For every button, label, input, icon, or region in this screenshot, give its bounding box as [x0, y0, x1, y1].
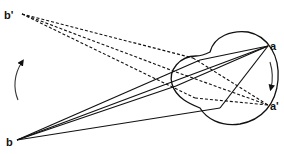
- label-a: a: [270, 40, 277, 52]
- label-b: b: [6, 136, 13, 148]
- label-a-prime: a': [270, 100, 279, 112]
- solid-rays: [17, 46, 268, 140]
- eye-ray-diagram: b' b a a': [0, 0, 284, 154]
- label-b-prime: b': [4, 9, 14, 21]
- rotation-arrow-up-icon: [15, 62, 22, 100]
- rotation-arrow-down-icon: [270, 62, 272, 88]
